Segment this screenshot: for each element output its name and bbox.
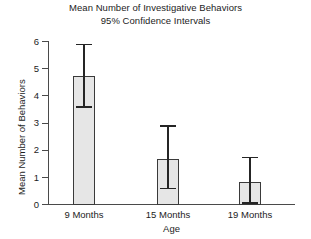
x-tick-label-15-months: 15 Months	[126, 209, 210, 220]
error-bar-cap-lower-9-months	[76, 106, 92, 108]
y-tick-label-0: 0	[15, 200, 39, 210]
y-tick-label-5: 5	[15, 64, 39, 74]
y-tick-2	[42, 150, 48, 151]
y-axis-line	[48, 41, 49, 205]
y-axis-title: Mean Number of Behaviors	[17, 79, 27, 195]
x-tick-label-19-months: 19 Months	[208, 209, 292, 220]
y-tick-3	[42, 123, 48, 124]
plot-area: 0 1 2 3 4 5 6 Mean Number of Behaviors 9…	[0, 0, 311, 239]
error-bar-cap-upper-15-months	[160, 125, 176, 127]
error-bar-cap-upper-9-months	[76, 44, 92, 46]
y-tick-5	[42, 68, 48, 69]
chart-figure: Mean Number of Investigative Behaviors 9…	[0, 0, 311, 239]
y-tick-4	[42, 95, 48, 96]
y-tick-6	[42, 41, 48, 42]
error-bar-stem-19-months	[249, 157, 251, 205]
x-axis-title: Age	[48, 224, 295, 234]
y-tick-label-6: 6	[15, 37, 39, 47]
error-bar-cap-upper-19-months	[242, 157, 258, 159]
y-tick-0	[42, 204, 48, 205]
error-bar-cap-lower-19-months	[242, 202, 258, 204]
error-bar-stem-15-months	[167, 125, 169, 188]
error-bar-cap-lower-15-months	[160, 188, 176, 190]
y-tick-1	[42, 177, 48, 178]
error-bar-stem-9-months	[83, 44, 85, 107]
x-tick-label-9-months: 9 Months	[44, 209, 124, 220]
